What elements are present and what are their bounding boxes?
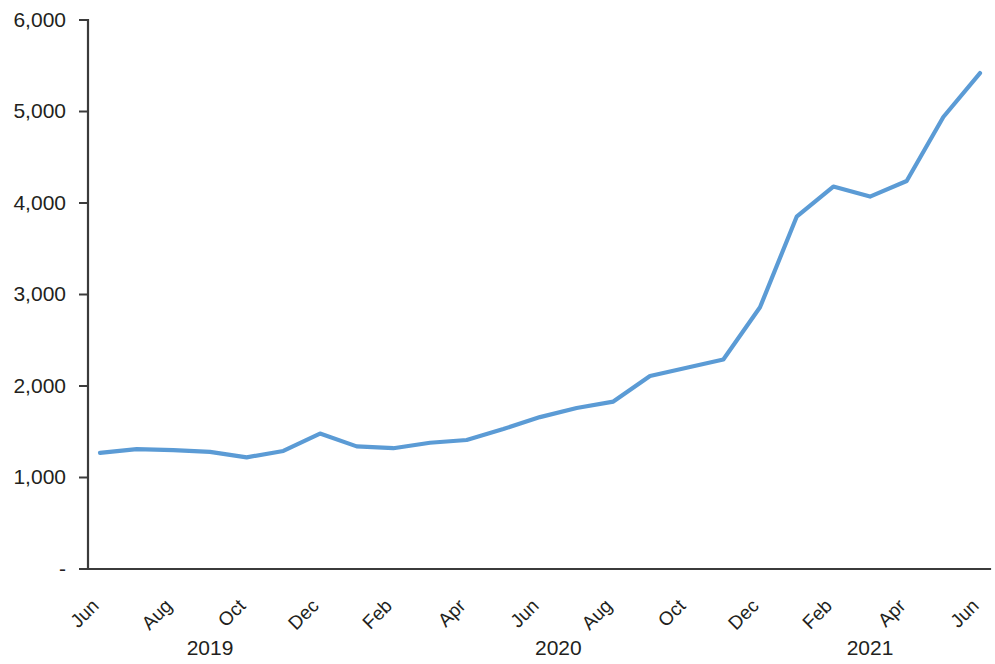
x-tick-label: Apr: [874, 595, 910, 631]
data-series-line: [100, 73, 980, 457]
x-tick-label: Feb: [798, 595, 836, 633]
y-tick-label: 2,000: [13, 374, 66, 397]
x-tick-label: Jun: [66, 595, 103, 632]
year-label: 2021: [847, 636, 894, 659]
y-tick-label: 1,000: [13, 465, 66, 488]
y-tick-label: -: [59, 557, 66, 580]
chart-canvas: -1,0002,0003,0004,0005,0006,000 JunAugOc…: [0, 0, 995, 664]
x-tick-label: Oct: [214, 594, 250, 630]
year-label: 2020: [535, 636, 582, 659]
y-tick-label: 6,000: [13, 8, 66, 31]
x-tick-label: Oct: [654, 594, 690, 630]
x-tick-label: Aug: [577, 595, 616, 634]
x-tick-label: Feb: [358, 595, 396, 633]
y-axis: -1,0002,0003,0004,0005,0006,000: [13, 8, 88, 580]
x-tick-label: Jun: [946, 595, 983, 632]
y-tick-label: 4,000: [13, 191, 66, 214]
y-tick-label: 3,000: [13, 282, 66, 305]
year-group-labels: 201920202021: [187, 636, 894, 659]
x-tick-label: Aug: [137, 595, 176, 634]
y-tick-label: 5,000: [13, 99, 66, 122]
x-tick-label: Dec: [284, 595, 323, 634]
x-tick-label: Jun: [506, 595, 543, 632]
x-tick-label: Dec: [724, 595, 763, 634]
year-label: 2019: [187, 636, 234, 659]
line-chart: -1,0002,0003,0004,0005,0006,000 JunAugOc…: [0, 0, 995, 664]
x-tick-labels: JunAugOctDecFebAprJunAugOctDecFebAprJun: [66, 594, 983, 633]
x-tick-label: Apr: [434, 595, 470, 631]
plot-area: [100, 73, 980, 457]
